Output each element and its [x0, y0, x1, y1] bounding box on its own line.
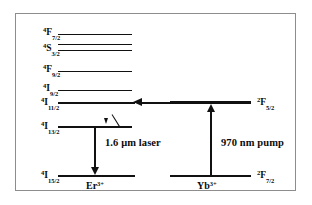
pump-arrow-shaft [210, 111, 212, 175]
yb-ion-charge: 3+ [210, 180, 217, 187]
pump-arrowhead-up-icon [207, 104, 215, 112]
energy-level-diagram: 4F7/2 4S3/2 4F9/2 4I9/2 4I11/2 4I13/2 4I… [0, 0, 312, 205]
yb-level-line-2f72 [170, 175, 251, 177]
er-level-line-4i112 [58, 102, 135, 104]
yb-level-label-2f72: 2F7/2 [257, 169, 274, 183]
er-ion-label: Er3+ [86, 180, 104, 191]
energy-transfer-shaft [142, 102, 170, 103]
pump-transition-label: 970 nm pump [221, 138, 284, 149]
yb-ion-label: Yb3+ [197, 180, 217, 191]
laser-arrow-shaft [94, 127, 96, 169]
er-level-line-4f92 [58, 71, 132, 72]
er-level-label-4i112: 4I11/2 [41, 96, 59, 110]
er-level-line-4f72 [58, 34, 132, 35]
relaxation-arrowhead-down-icon [104, 118, 108, 124]
yb-ion-text: Yb [197, 180, 210, 191]
er-level-label-4i132: 4I13/2 [41, 120, 60, 134]
energy-transfer-arrowhead-left-icon [133, 98, 142, 106]
er-level-line-4i152 [58, 175, 135, 177]
er-level-label-4f92: 4F9/2 [43, 63, 60, 77]
er-level-label-4f72: 4F7/2 [43, 26, 60, 40]
relaxation-arrow-shaft [112, 114, 120, 126]
er-level-label-4i92: 4I9/2 [43, 82, 58, 96]
laser-transition-label: 1.6 μm laser [105, 138, 161, 149]
laser-arrowhead-down-icon [91, 167, 99, 175]
er-ion-text: Er [86, 180, 97, 191]
er-level-label-4s32: 4S3/2 [43, 42, 60, 56]
er-ion-charge: 3+ [97, 180, 104, 187]
er-level-line-4i92 [58, 90, 132, 91]
figure-border: 4F7/2 4S3/2 4F9/2 4I9/2 4I11/2 4I13/2 4I… [15, 13, 296, 191]
er-level-line-4s32 [58, 50, 132, 51]
er-level-line-4s32-upper [58, 44, 132, 45]
yb-level-label-2f52: 2F5/2 [257, 96, 274, 110]
er-level-label-4i152: 4I15/2 [41, 169, 60, 183]
